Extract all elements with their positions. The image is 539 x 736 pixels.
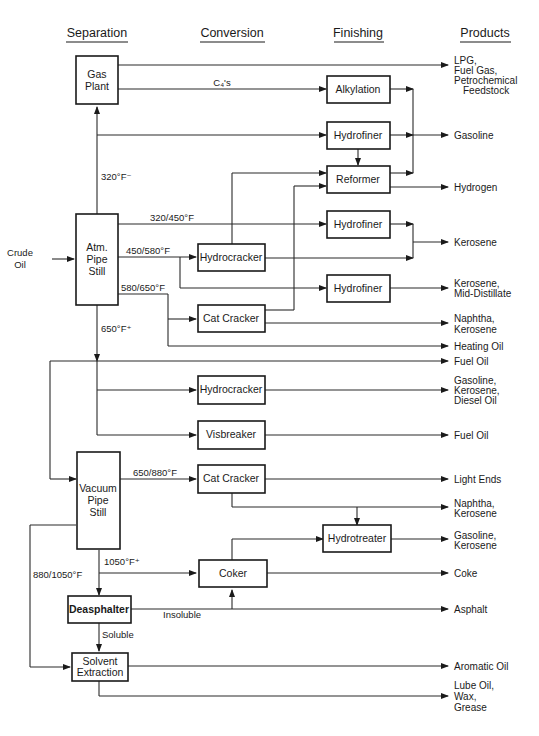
product-kerosene-mid-distillate: Kerosene, Mid-Distillate: [454, 278, 512, 299]
svg-text:Deasphalter: Deasphalter: [69, 603, 129, 615]
svg-text:Kerosene: Kerosene: [454, 324, 497, 335]
svg-text:Vacuum: Vacuum: [79, 482, 117, 494]
product-fuel-oil-1: Fuel Oil: [454, 356, 488, 367]
cut-650-880-label: 650/880°F: [133, 467, 177, 478]
unit-cat-cracker-1: Cat Cracker: [198, 305, 265, 332]
product-coke: Coke: [454, 568, 478, 579]
svg-text:Feedstock: Feedstock: [463, 85, 510, 96]
column-headers: Separation Conversion Finishing Products: [66, 26, 511, 42]
products: LPG, Fuel Gas, Petrochemical Feedstock G…: [454, 55, 517, 713]
svg-text:Atm.: Atm.: [86, 241, 108, 253]
svg-text:Oil: Oil: [14, 259, 26, 270]
insoluble-label: Insoluble: [163, 609, 201, 620]
product-lpg: LPG, Fuel Gas, Petrochemical Feedstock: [454, 55, 517, 96]
product-hydrogen: Hydrogen: [454, 182, 497, 193]
unit-hydrocracker-2: Hydrocracker: [198, 376, 265, 404]
svg-text:Extraction: Extraction: [77, 666, 124, 678]
product-heating-oil: Heating Oil: [454, 341, 503, 352]
cut-450-580-label: 450/580°F: [126, 245, 170, 256]
cut-650-plus-label: 650°F⁺: [101, 323, 131, 334]
refinery-flow-diagram: Separation Conversion Finishing Products: [0, 0, 539, 736]
unit-reformer: Reformer: [327, 166, 390, 193]
svg-text:Kerosene: Kerosene: [454, 540, 497, 551]
unit-hydrotreater: Hydrotreater: [323, 525, 391, 552]
unit-atm-pipe-still: Atm. Pipe Still: [76, 214, 118, 305]
unit-visbreaker: Visbreaker: [198, 421, 265, 449]
svg-text:Reformer: Reformer: [336, 173, 380, 185]
unit-hydrofiner-3: Hydrofiner: [327, 275, 390, 302]
product-fuel-oil-2: Fuel Oil: [454, 430, 488, 441]
product-gasoline-kerosene-diesel: Gasoline, Kerosene, Diesel Oil: [454, 375, 500, 406]
product-aromatic-oil: Aromatic Oil: [454, 661, 508, 672]
svg-text:Diesel Oil: Diesel Oil: [454, 395, 497, 406]
unit-deasphalter: Deasphalter: [68, 596, 131, 623]
unit-hydrofiner-2: Hydrofiner: [327, 211, 390, 238]
product-asphalt: Asphalt: [454, 604, 488, 615]
cut-320-450-label: 320/450°F: [150, 212, 194, 223]
svg-text:Pipe: Pipe: [87, 494, 108, 506]
svg-text:Mid-Distillate: Mid-Distillate: [454, 288, 512, 299]
svg-text:Hydrofiner: Hydrofiner: [334, 129, 383, 141]
svg-text:Alkylation: Alkylation: [336, 83, 381, 95]
cut-1050-plus-label: 1050°F⁺: [104, 556, 140, 567]
unit-coker: Coker: [199, 560, 267, 587]
svg-text:Pipe: Pipe: [86, 253, 107, 265]
svg-text:Coker: Coker: [219, 567, 248, 579]
header-conversion: Conversion: [200, 26, 263, 40]
svg-text:Still: Still: [89, 265, 106, 277]
svg-text:Hydrofiner: Hydrofiner: [334, 218, 383, 230]
product-kerosene: Kerosene: [454, 237, 497, 248]
svg-text:Naphtha,: Naphtha,: [454, 313, 495, 324]
svg-text:Lube Oil,: Lube Oil,: [454, 680, 494, 691]
svg-text:Plant: Plant: [85, 80, 109, 92]
svg-text:Hydrocracker: Hydrocracker: [200, 251, 263, 263]
unit-vacuum-pipe-still: Vacuum Pipe Still: [77, 452, 120, 549]
header-separation: Separation: [67, 26, 128, 40]
unit-solvent-extraction: Solvent Extraction: [72, 653, 128, 681]
svg-text:Wax,: Wax,: [454, 691, 476, 702]
unit-alkylation: Alkylation: [327, 76, 390, 103]
svg-text:Hydrocracker: Hydrocracker: [200, 383, 263, 395]
stream-labels: Crude Oil C₄'s 320°F⁻ 320/450°F 450/580°…: [7, 77, 231, 640]
svg-text:Hydrofiner: Hydrofiner: [334, 282, 383, 294]
soluble-label: Soluble: [102, 629, 134, 640]
svg-text:Cat Cracker: Cat Cracker: [203, 472, 260, 484]
unit-cat-cracker-2: Cat Cracker: [198, 465, 265, 493]
cut-320-minus-label: 320°F⁻: [101, 171, 131, 182]
header-finishing: Finishing: [333, 26, 383, 40]
c4s-label: C₄'s: [213, 77, 231, 88]
header-products: Products: [460, 26, 509, 40]
svg-text:Cat Cracker: Cat Cracker: [203, 312, 260, 324]
svg-text:Grease: Grease: [454, 702, 487, 713]
svg-text:Kerosene: Kerosene: [454, 508, 497, 519]
cut-880-1050-label: 880/1050°F: [33, 569, 82, 580]
svg-text:Visbreaker: Visbreaker: [206, 428, 257, 440]
product-gasoline-kerosene: Gasoline, Kerosene: [454, 530, 497, 551]
product-naphtha-kerosene-2: Naphtha, Kerosene: [454, 498, 497, 519]
crude-oil-label: Crude: [7, 247, 33, 258]
unit-gas-plant: Gas Plant: [76, 56, 118, 104]
unit-hydrofiner-1: Hydrofiner: [327, 122, 390, 149]
svg-text:Hydrotreater: Hydrotreater: [328, 532, 387, 544]
product-lube-oil-wax-grease: Lube Oil, Wax, Grease: [454, 680, 494, 713]
product-light-ends: Light Ends: [454, 474, 501, 485]
svg-text:Still: Still: [90, 506, 107, 518]
product-gasoline: Gasoline: [454, 130, 494, 141]
product-naphtha-kerosene-1: Naphtha, Kerosene: [454, 313, 497, 335]
cut-580-650-label: 580/650°F: [121, 282, 165, 293]
unit-hydrocracker-1: Hydrocracker: [198, 244, 265, 271]
svg-text:Gas: Gas: [87, 68, 106, 80]
